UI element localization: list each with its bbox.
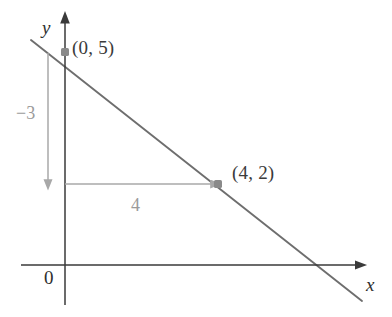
- y-axis-label: y: [42, 18, 50, 37]
- coordinate-plane-svg: [0, 0, 392, 317]
- graph-figure: (0, 5) (4, 2) y x 0 −3 4: [0, 0, 392, 317]
- origin-label: 0: [44, 268, 54, 287]
- run-annotation-label: 4: [131, 196, 140, 214]
- plotted-line: [31, 40, 362, 301]
- data-point-4-2: [214, 180, 222, 188]
- rise-annotation-label: −3: [16, 104, 35, 122]
- point-label-4-2: (4, 2): [232, 163, 274, 182]
- data-point-0-5: [61, 48, 69, 56]
- point-label-0-5: (0, 5): [72, 38, 114, 57]
- x-axis-label: x: [366, 275, 374, 294]
